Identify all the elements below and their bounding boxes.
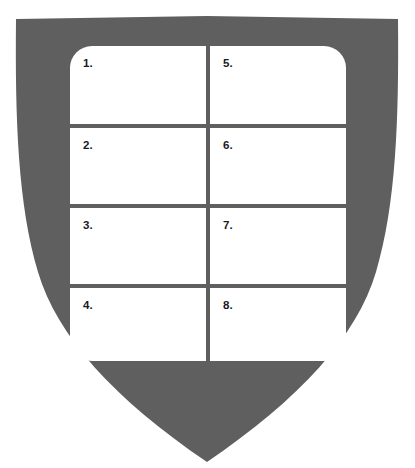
shield-cell-4[interactable]: 4. <box>70 288 206 361</box>
shield-cell-6-label: 6. <box>223 140 233 152</box>
shield-cell-7[interactable]: 7. <box>210 208 346 284</box>
shield-cell-5-label: 5. <box>223 58 233 70</box>
shield-cell-2[interactable]: 2. <box>70 128 206 204</box>
shield-cell-4-label: 4. <box>83 300 93 312</box>
shield-cell-3-label: 3. <box>83 220 93 232</box>
shield-cell-5[interactable]: 5. <box>210 46 346 124</box>
shield-cell-8-label: 8. <box>223 300 233 312</box>
shield-cell-grid: 1. 5. 2. 6. 3. 7. 4. 8. <box>70 46 346 361</box>
shield-cell-2-label: 2. <box>83 140 93 152</box>
shield-cell-1[interactable]: 1. <box>70 46 206 124</box>
shield-cell-3[interactable]: 3. <box>70 208 206 284</box>
shield-cell-7-label: 7. <box>223 220 233 232</box>
shield-cell-8[interactable]: 8. <box>210 288 346 361</box>
shield-cell-1-label: 1. <box>83 58 93 70</box>
shield-cell-6[interactable]: 6. <box>210 128 346 204</box>
